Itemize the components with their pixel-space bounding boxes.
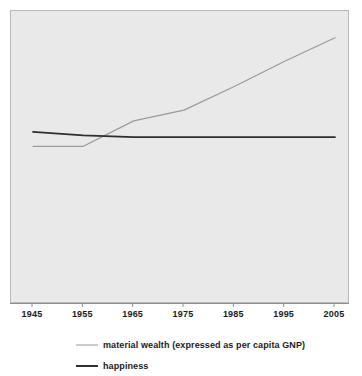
series-line-happiness [33, 132, 335, 137]
x-tick-label-1985: 1985 [210, 309, 256, 320]
legend-swatch-material-wealth-icon [76, 341, 98, 349]
legend-swatch-happiness-icon [76, 362, 98, 370]
chart-legend: material wealth (expressed as per capita… [0, 334, 362, 376]
x-tick-label-1955: 1955 [59, 309, 105, 320]
legend-label-material-wealth: material wealth (expressed as per capita… [103, 340, 305, 350]
legend-item-material-wealth: material wealth (expressed as per capita… [0, 334, 362, 355]
x-tick-label-1995: 1995 [261, 309, 307, 320]
x-tick-label-2005: 2005 [311, 309, 357, 320]
x-tick-label-1965: 1965 [110, 309, 156, 320]
series-line-material-wealth [33, 38, 335, 147]
legend-item-happiness: happiness [0, 355, 362, 376]
chart-figure: 1945 1955 1965 1975 1985 1995 2005 mater… [0, 0, 362, 376]
plot-canvas [11, 11, 350, 304]
x-tick-label-1975: 1975 [160, 309, 206, 320]
x-axis: 1945 1955 1965 1975 1985 1995 2005 [10, 303, 349, 327]
plot-area [10, 10, 349, 303]
x-tick-label-1945: 1945 [9, 309, 55, 320]
legend-label-happiness: happiness [103, 361, 148, 371]
